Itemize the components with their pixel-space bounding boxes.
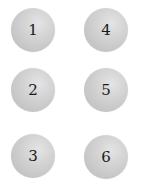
number-label: 2 [28,83,38,98]
number-label: 6 [101,150,111,165]
number-button-3[interactable]: 3 [11,134,55,178]
number-button-1[interactable]: 1 [11,8,55,52]
number-label: 1 [28,23,38,38]
number-button-2[interactable]: 2 [11,68,55,112]
number-label: 4 [101,23,111,38]
number-label: 5 [101,83,111,98]
number-label: 3 [28,149,38,164]
number-button-6[interactable]: 6 [84,135,128,179]
number-button-5[interactable]: 5 [84,68,128,112]
number-button-4[interactable]: 4 [84,8,128,52]
